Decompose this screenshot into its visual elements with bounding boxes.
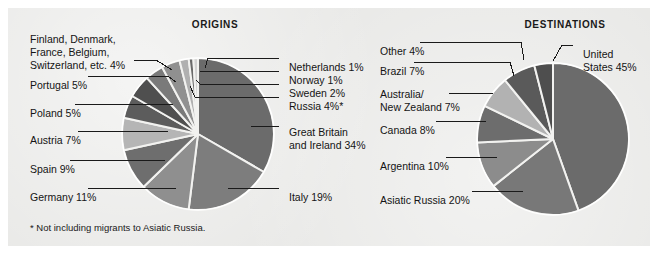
origins-label-austria: Austria 7% xyxy=(30,134,81,147)
destinations-label-united-states-line2: States 45% xyxy=(583,61,637,74)
destinations-label-united-states-line1: United xyxy=(583,48,637,61)
destinations-label-asiatic-russia: Asiatic Russia 20% xyxy=(380,194,470,207)
figure-root: ORIGINS Great Britain and Ireland 34%Ita… xyxy=(0,0,658,257)
origins-label-great-britain-line2: and Ireland 34% xyxy=(289,139,365,152)
destinations-label-australia-nz-line2: New Zealand 7% xyxy=(380,101,460,114)
origins-label-netherlands: Netherlands 1% xyxy=(289,61,364,74)
origins-pie: Great Britain and Ireland 34%Italy 19%Ge… xyxy=(120,56,276,212)
origins-label-great-britain-line1: Great Britain xyxy=(289,126,365,139)
origins-label-poland: Poland 5% xyxy=(30,107,81,120)
destinations-pie: United States 45%Asiatic Russia 20%Argen… xyxy=(475,61,631,217)
destinations-label-other: Other 4% xyxy=(380,45,424,58)
chart-panel: ORIGINS Great Britain and Ireland 34%Ita… xyxy=(8,8,650,246)
destinations-label-australia-nz-line1: Australia/ xyxy=(380,88,460,101)
origins-label-germany: Germany 11% xyxy=(30,191,96,204)
origins-label-italy: Italy 19% xyxy=(289,191,332,204)
origins-label-spain: Spain 9% xyxy=(30,163,75,176)
origins-label-other-line2: France, Belgium, xyxy=(30,46,125,59)
origins-pie-svg: Great Britain and Ireland 34%Italy 19%Ge… xyxy=(120,56,276,212)
origins-label-great-britain: Great Britain and Ireland 34% xyxy=(289,126,365,152)
origins-label-other-line1: Finland, Denmark, xyxy=(30,33,125,46)
origins-label-portugal: Portugal 5% xyxy=(30,79,87,92)
origins-footnote: * Not including migrants to Asiatic Russ… xyxy=(30,222,205,233)
destinations-label-australia-nz: Australia/ New Zealand 7% xyxy=(380,88,460,114)
origins-label-norway: Norway 1% xyxy=(289,74,343,87)
origins-label-other-group: Finland, Denmark, France, Belgium, Switz… xyxy=(30,33,125,72)
origins-label-russia: Russia 4%* xyxy=(289,100,343,113)
destinations-label-brazil: Brazil 7% xyxy=(380,65,424,78)
destinations-label-united-states: United States 45% xyxy=(583,48,637,74)
origins-label-other-line3: Switzerland, etc. 4% xyxy=(30,59,125,72)
destinations-pie-svg: United States 45%Asiatic Russia 20%Argen… xyxy=(475,61,631,217)
destinations-label-canada: Canada 8% xyxy=(380,124,435,137)
destinations-label-argentina: Argentina 10% xyxy=(380,160,449,173)
origins-label-sweden: Sweden 2% xyxy=(289,87,345,100)
destinations-chart-title: DESTINATIONS xyxy=(525,19,606,30)
origins-chart-title: ORIGINS xyxy=(192,19,238,30)
